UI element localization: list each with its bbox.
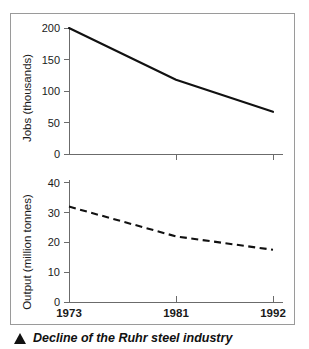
chart-output-y-tick-40: 40 [48,177,60,189]
chart-jobs-y-tick-100: 100 [42,85,60,97]
chart-jobs-y-axis-title: Jobs (thousands) [21,54,33,142]
chart-jobs: Jobs (thousands) 200 150 100 50 0 [21,22,283,160]
chart-jobs-y-tick-200: 200 [42,22,60,34]
chart-output-x-ticks [176,296,273,302]
chart-output-series-line [69,207,273,250]
chart-output-y-ticks: 40 30 20 10 0 [48,177,69,308]
chart-jobs-y-ticks: 200 150 100 50 0 [42,22,69,160]
figure-caption-text: Decline of the Ruhr steel industry [33,331,232,345]
chart-output-y-tick-20: 20 [48,236,60,248]
x-axis-label-1973: 1973 [56,307,82,319]
chart-output: Output (million tonnes) 40 30 20 10 0 [21,177,286,319]
x-axis-label-1992: 1992 [260,307,286,319]
figure-frame: Jobs (thousands) 200 150 100 50 0 [10,13,295,325]
shared-x-axis-labels: 1973 1981 1992 [56,307,286,319]
stacked-line-charts: Jobs (thousands) 200 150 100 50 0 [11,14,296,326]
triangle-up-icon [14,333,26,344]
chart-output-y-tick-10: 10 [48,266,60,278]
chart-jobs-y-tick-0: 0 [54,148,60,160]
chart-output-y-tick-30: 30 [48,207,60,219]
chart-output-y-axis-title: Output (million tonnes) [21,194,33,310]
scan-top-artifact-strip [0,0,309,11]
chart-jobs-y-tick-50: 50 [48,117,60,129]
chart-jobs-y-tick-150: 150 [42,54,60,66]
figure-caption: Decline of the Ruhr steel industry [0,327,309,349]
chart-jobs-series-line [69,28,273,112]
chart-jobs-x-ticks [176,154,273,160]
x-axis-label-1981: 1981 [163,307,189,319]
